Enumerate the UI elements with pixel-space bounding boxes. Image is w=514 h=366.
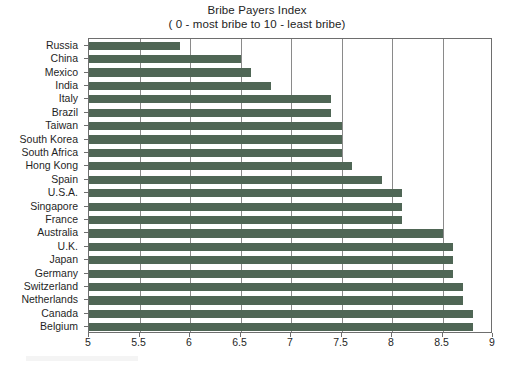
bar-australia	[89, 229, 443, 237]
y-label-hong-kong: Hong Kong	[25, 159, 78, 171]
y-label-china: China	[51, 52, 78, 64]
bar-u-s-a-	[89, 189, 402, 197]
bar-brazil	[89, 109, 331, 117]
x-axis-tick-labels: 55.566.577.588.59	[0, 336, 514, 352]
chart-subtitle: ( 0 - most bribe to 10 - least bribe)	[0, 17, 514, 31]
x-label-8: 8	[388, 336, 394, 349]
bar-italy	[89, 95, 331, 103]
x-label-6.5: 6.5	[232, 336, 247, 349]
y-label-italy: Italy	[59, 92, 78, 104]
bribe-payers-index-chart: Bribe Payers Index ( 0 - most bribe to 1…	[0, 0, 514, 366]
bar-switzerland	[89, 283, 463, 291]
y-label-japan: Japan	[49, 253, 78, 265]
x-label-5: 5	[85, 336, 91, 349]
y-label-germany: Germany	[35, 267, 78, 279]
y-label-india: India	[55, 79, 78, 91]
bar-germany	[89, 270, 453, 278]
bar-china	[89, 55, 241, 63]
x-label-6: 6	[186, 336, 192, 349]
y-label-south-korea: South Korea	[20, 133, 78, 145]
x-label-9: 9	[489, 336, 495, 349]
y-label-u-k-: U.K.	[58, 240, 78, 252]
x-label-8.5: 8.5	[434, 336, 449, 349]
y-label-australia: Australia	[37, 226, 78, 238]
y-axis-category-labels: RussiaChinaMexicoIndiaItalyBrazilTaiwanS…	[0, 38, 84, 333]
bar-taiwan	[89, 122, 342, 130]
chart-title-block: Bribe Payers Index ( 0 - most bribe to 1…	[0, 3, 514, 31]
y-label-brazil: Brazil	[52, 106, 78, 118]
bar-canada	[89, 310, 473, 318]
y-label-u-s-a-: U.S.A.	[48, 186, 78, 198]
bar-france	[89, 216, 402, 224]
bar-netherlands	[89, 296, 463, 304]
bar-belgium	[89, 323, 473, 331]
x-label-7: 7	[287, 336, 293, 349]
bar-south-korea	[89, 135, 342, 143]
y-label-spain: Spain	[51, 173, 78, 185]
bar-spain	[89, 176, 382, 184]
y-label-south-africa: South Africa	[21, 146, 78, 158]
bar-u-k-	[89, 243, 453, 251]
y-label-taiwan: Taiwan	[45, 119, 78, 131]
bar-mexico	[89, 68, 251, 76]
bar-india	[89, 82, 271, 90]
y-label-russia: Russia	[46, 39, 78, 51]
bar-japan	[89, 256, 453, 264]
y-label-netherlands: Netherlands	[21, 293, 78, 305]
footer-artifact	[26, 356, 138, 361]
bar-south-africa	[89, 149, 342, 157]
plot-area	[88, 38, 492, 333]
bar-singapore	[89, 203, 402, 211]
bar-russia	[89, 42, 180, 50]
y-label-canada: Canada	[41, 307, 78, 319]
bars-layer	[89, 39, 491, 332]
y-label-france: France	[45, 213, 78, 225]
bar-hong-kong	[89, 162, 352, 170]
x-label-5.5: 5.5	[131, 336, 146, 349]
y-label-singapore: Singapore	[30, 200, 78, 212]
y-label-switzerland: Switzerland	[24, 280, 78, 292]
x-label-7.5: 7.5	[333, 336, 348, 349]
chart-title: Bribe Payers Index	[0, 3, 514, 17]
y-label-belgium: Belgium	[40, 320, 78, 332]
y-label-mexico: Mexico	[45, 66, 78, 78]
